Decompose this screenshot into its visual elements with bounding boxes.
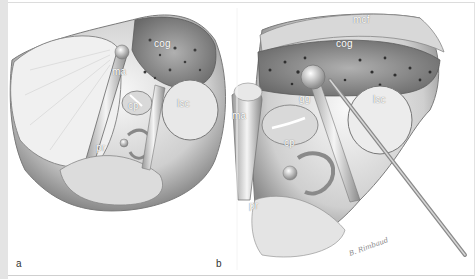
label-pr-b: pr	[249, 200, 258, 211]
panel-label-a: a	[16, 258, 22, 269]
anatomical-illustration	[0, 0, 475, 279]
label-ma-a: ma	[112, 66, 126, 77]
label-pr-a: pr	[96, 142, 105, 153]
label-ma-b: ma	[232, 110, 246, 121]
label-cog-b: cog	[336, 38, 353, 49]
label-cog-a: cog	[154, 38, 171, 49]
panel-b-drawing	[232, 14, 465, 257]
label-gg-b: gg	[299, 93, 311, 104]
panel-label-b: b	[216, 258, 222, 269]
label-cp-b: cp	[284, 137, 295, 148]
label-lsc-a: lsc	[177, 98, 190, 109]
label-mcf-b: mcf	[353, 14, 370, 25]
label-lsc-b: lsc	[373, 94, 386, 105]
panel-a-drawing	[10, 15, 225, 211]
label-cp-a: cp	[128, 100, 139, 111]
